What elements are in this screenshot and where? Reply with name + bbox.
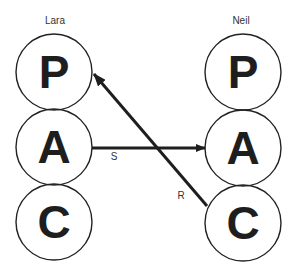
lara-parent-state: P xyxy=(16,34,92,110)
transaction-label-r: R xyxy=(177,190,184,201)
transaction-response: R xyxy=(94,74,207,206)
state-letter: P xyxy=(39,46,70,98)
state-letter: C xyxy=(226,197,259,249)
lara-child-state: C xyxy=(16,184,92,260)
lara-adult-state: A xyxy=(16,109,92,185)
neil-adult-state: A xyxy=(205,110,281,186)
person-neil: Neil P A C xyxy=(205,15,281,261)
neil-child-state: C xyxy=(205,185,281,261)
transaction-label-s: S xyxy=(111,151,118,162)
state-letter: A xyxy=(37,121,70,173)
state-letter: A xyxy=(226,122,259,174)
person-lara: Lara P A C xyxy=(16,15,92,260)
transaction-stimulus: S xyxy=(92,148,205,162)
person-name-lara: Lara xyxy=(45,15,65,26)
state-letter: C xyxy=(37,196,70,248)
neil-parent-state: P xyxy=(205,34,281,110)
state-letter: P xyxy=(228,46,259,98)
arrow-diagonal-icon xyxy=(94,74,207,206)
pac-transaction-diagram: Lara P A C Neil P A C S xyxy=(0,0,291,272)
person-name-neil: Neil xyxy=(232,15,249,26)
